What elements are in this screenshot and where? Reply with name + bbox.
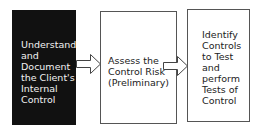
- step-2-label: Assess the Control Risk (Preliminary): [108, 55, 169, 88]
- arrow-right-icon: [76, 53, 102, 75]
- step-1-box: Understand and Document the Client's Int…: [12, 10, 76, 125]
- step-1-label: Understand and Document the Client's Int…: [21, 39, 76, 105]
- step-3-box: Identify Controls to Test and perform Te…: [187, 9, 250, 122]
- step-3-label: Identify Controls to Test and perform Te…: [202, 29, 241, 106]
- arrow-right-icon: [163, 55, 189, 77]
